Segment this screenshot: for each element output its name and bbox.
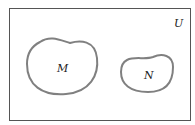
set-n-label: N [143, 69, 154, 82]
venn-diagram: U M N [0, 0, 195, 125]
universe-label: U [174, 17, 184, 30]
universe-rectangle [10, 9, 191, 121]
set-m-label: M [56, 62, 69, 75]
